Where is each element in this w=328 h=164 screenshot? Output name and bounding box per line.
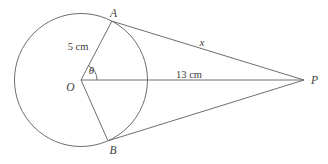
angle-theta-label: θ	[89, 64, 95, 76]
geometry-figure: A B O P 5 cm 13 cm x θ	[0, 0, 328, 164]
tangent-BP	[108, 80, 304, 141]
label-point-P: P	[310, 74, 318, 86]
radius-OB	[81, 80, 108, 141]
op-length-label: 13 cm	[176, 69, 202, 80]
label-center-O: O	[66, 81, 75, 93]
tangent-length-label: x	[199, 36, 205, 48]
radius-length-label: 5 cm	[68, 41, 89, 52]
label-point-B: B	[109, 144, 116, 156]
label-point-A: A	[109, 7, 118, 19]
circle-tangent-diagram: A B O P 5 cm 13 cm x θ	[0, 0, 328, 164]
